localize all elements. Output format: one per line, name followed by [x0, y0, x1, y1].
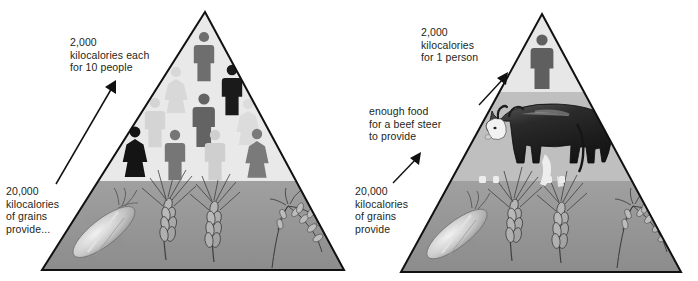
grains-to-steer-arrow — [393, 152, 421, 183]
left-pyramid-graphic — [0, 0, 349, 281]
right-top-label: 2,000 kilocalories for 1 person — [421, 26, 478, 64]
food-energy-pyramid-figure: 2,000 kilocalories each for 10 people 20… — [0, 0, 698, 281]
left-bottom-label: 20,000 kilocalories of grains provide... — [6, 185, 59, 235]
left-pyramid-panel: 2,000 kilocalories each for 10 people 20… — [0, 0, 349, 281]
left-pyramid-body — [0, 0, 349, 281]
right-middle-label: enough food for a beef steer to provide — [369, 105, 441, 143]
right-bottom-label: 20,000 kilocalories of grains provide — [355, 185, 408, 235]
right-pyramid-panel: 2,000 kilocalories for 1 person enough f… — [349, 0, 698, 281]
left-top-label: 2,000 kilocalories each for 10 people — [70, 36, 149, 74]
